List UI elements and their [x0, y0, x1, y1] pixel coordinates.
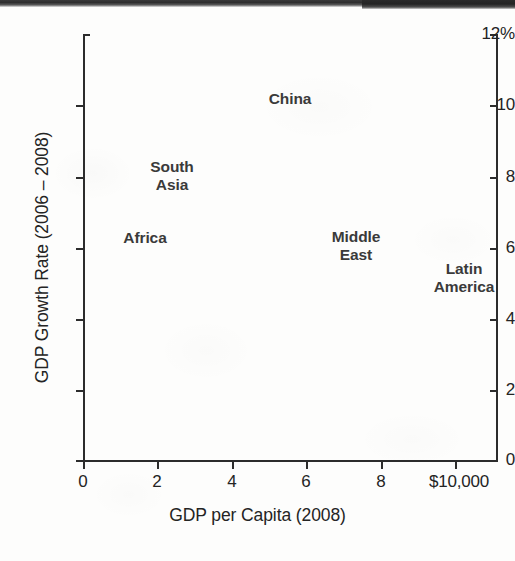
x-ticklabel-2: 2 — [152, 472, 161, 492]
scan-edge-band-right — [362, 0, 515, 9]
data-label-middle-east: Middle East — [332, 228, 380, 264]
y-ticklabel-2: 2 — [441, 380, 515, 400]
data-label-china: China — [269, 90, 312, 108]
y-axis-title: GDP Growth Rate (2006 – 2008) — [32, 48, 53, 468]
chart-figure: 0 2 4 6 8 10 12% 0 2 4 6 8 $10,000 GDP p… — [0, 0, 515, 561]
x-tick-10000 — [455, 461, 457, 469]
y-ticklabel-0: 0 — [441, 450, 515, 470]
y-ticklabel-12: 12% — [441, 24, 515, 44]
x-tick-4 — [232, 461, 234, 469]
x-ticklabel-6: 6 — [301, 472, 310, 492]
y-axis-top-cap — [83, 34, 90, 36]
data-label-latin-america: Latin America — [434, 260, 494, 296]
x-tick-0 — [83, 461, 85, 469]
y-axis-line — [83, 34, 85, 462]
y-tick-10 — [76, 105, 83, 107]
data-label-africa: Africa — [123, 229, 166, 247]
x-tick-2 — [157, 461, 159, 469]
y-tick-4 — [76, 319, 83, 321]
x-tick-6 — [306, 461, 308, 469]
x-axis-title: GDP per Capita (2008) — [0, 505, 515, 526]
y-ticklabel-4: 4 — [441, 309, 515, 329]
y-ticklabel-6: 6 — [441, 238, 515, 258]
x-ticklabel-8: 8 — [376, 472, 385, 492]
y-tick-6 — [76, 248, 83, 250]
x-ticklabel-10000: $10,000 — [429, 472, 489, 492]
x-ticklabel-0: 0 — [78, 472, 87, 492]
x-tick-8 — [381, 461, 383, 469]
x-ticklabel-4: 4 — [227, 472, 236, 492]
x-axis-line — [83, 460, 498, 462]
y-ticklabel-10: 10 — [441, 95, 515, 115]
y-tick-8 — [76, 177, 83, 179]
y-tick-0 — [76, 460, 83, 462]
y-tick-2 — [76, 390, 83, 392]
y-ticklabel-8: 8 — [441, 167, 515, 187]
data-label-south-asia: South Asia — [150, 158, 193, 194]
